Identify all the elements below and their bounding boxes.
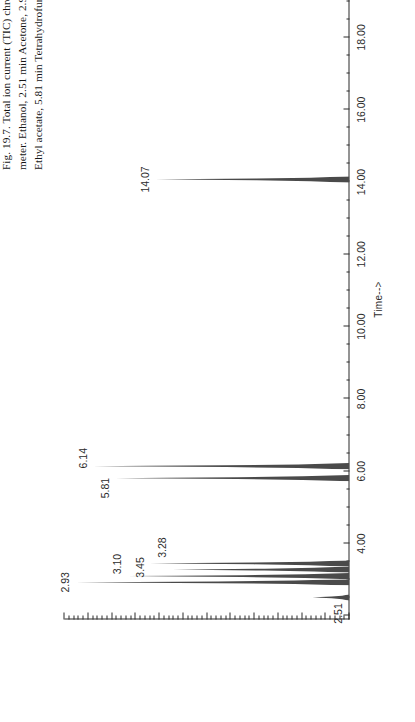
time-axis-major-tick [344, 543, 350, 544]
chromatogram-plot-area: 4.006.008.0010.0012.0014.0016.0018.00 2.… [65, 0, 350, 620]
peak-body [93, 463, 350, 469]
abundance-minor-tick [282, 616, 283, 620]
time-axis-minor-tick [346, 434, 350, 435]
time-axis-major-tick [344, 109, 350, 110]
abundance-minor-tick [306, 616, 307, 620]
peak-label-14-07: 14.07 [139, 166, 151, 192]
peak-body [312, 594, 349, 600]
abundance-minor-tick [163, 616, 164, 620]
abundance-major-tick [230, 613, 231, 620]
peak-3-28 [173, 566, 350, 572]
abundance-major-tick [301, 613, 302, 620]
abundance-major-tick [349, 613, 350, 620]
abundance-minor-tick [287, 616, 288, 620]
time-axis-major-tick [344, 398, 350, 399]
time-axis-minor-tick [346, 271, 350, 272]
time-axis-label: 10.00 [355, 313, 367, 339]
time-axis-minor-tick [346, 380, 350, 381]
abundance-major-tick [277, 613, 278, 620]
peak-label-2-93: 2.93 [59, 572, 71, 592]
abundance-minor-tick [225, 616, 226, 620]
time-axis-minor-tick [346, 163, 350, 164]
time-axis-minor-tick [346, 416, 350, 417]
peak-label-3-28: 3.28 [156, 537, 168, 557]
abundance-major-tick [87, 613, 88, 620]
time-axis-label: 8.00 [355, 389, 367, 409]
time-axis-minor-tick [346, 145, 350, 146]
abundance-minor-tick [344, 616, 345, 620]
abundance-major-tick [182, 613, 183, 620]
time-axis-major-tick [344, 470, 350, 471]
peak-label-3-45: 3.45 [133, 557, 145, 577]
peak-5-81 [116, 475, 350, 481]
time-axis-minor-tick [346, 344, 350, 345]
abundance-minor-tick [168, 616, 169, 620]
time-axis-major-tick [344, 36, 350, 37]
time-axis-minor-tick [346, 452, 350, 453]
abundance-minor-tick [178, 616, 179, 620]
abundance-minor-tick [220, 616, 221, 620]
time-axis-minor-tick [346, 525, 350, 526]
time-axis-minor-tick [346, 18, 350, 19]
caption-line-2: meter. Ethanol, 2.51 min Acetone, 2.93 m… [14, 0, 30, 170]
abundance-major-tick [64, 613, 65, 620]
time-axis-minor-tick [346, 506, 350, 507]
abundance-minor-tick [121, 616, 122, 620]
abundance-minor-tick [263, 616, 264, 620]
peak-6-14 [93, 463, 350, 469]
peak-body [76, 579, 350, 585]
time-axis-minor-tick [346, 73, 350, 74]
abundance-major-tick [206, 613, 207, 620]
abundance-minor-tick [187, 616, 188, 620]
abundance-minor-tick [83, 616, 84, 620]
abundance-minor-tick [106, 616, 107, 620]
time-axis-major-tick [344, 253, 350, 254]
abundance-minor-tick [320, 616, 321, 620]
abundance-minor-tick [125, 616, 126, 620]
time-axis-label: 18.00 [355, 24, 367, 50]
abundance-minor-tick [296, 616, 297, 620]
abundance-major-tick [111, 613, 112, 620]
abundance-minor-tick [144, 616, 145, 620]
time-axis-label: 6.00 [355, 461, 367, 481]
abundance-minor-tick [97, 616, 98, 620]
peak-2-93 [76, 579, 350, 585]
abundance-minor-tick [211, 616, 212, 620]
time-axis-label: 14.00 [355, 169, 367, 195]
abundance-minor-tick [292, 616, 293, 620]
abundance-minor-tick [116, 616, 117, 620]
abundance-major-tick [325, 613, 326, 620]
time-axis-minor-tick [346, 488, 350, 489]
figure-caption: Fig. 19.7. Total ion current (TIC) chrom… [0, 0, 47, 170]
time-axis-major-tick [344, 326, 350, 327]
peak-body [156, 176, 350, 182]
abundance-minor-tick [173, 616, 174, 620]
abundance-minor-tick [239, 616, 240, 620]
peak-body [127, 573, 349, 579]
peak-2-51 [312, 594, 349, 600]
time-axis-minor-tick [346, 217, 350, 218]
abundance-minor-tick [249, 616, 250, 620]
peak-label-5-81: 5.81 [99, 478, 111, 498]
abundance-minor-tick [235, 616, 236, 620]
time-axis-minor-tick [346, 127, 350, 128]
peak-label-3-10: 3.10 [110, 554, 122, 574]
time-axis-label: 16.00 [355, 97, 367, 123]
abundance-major-tick [254, 613, 255, 620]
abundance-minor-tick [68, 616, 69, 620]
peak-label-6-14: 6.14 [76, 448, 88, 468]
peak-body [150, 560, 350, 566]
chromatogram-figure: 4.006.008.0010.0012.0014.0016.0018.00 2.… [65, 0, 350, 620]
time-axis-minor-tick [346, 308, 350, 309]
abundance-minor-tick [244, 616, 245, 620]
abundance-minor-tick [258, 616, 259, 620]
time-axis-minor-tick [346, 91, 350, 92]
abundance-axis-line [65, 619, 350, 620]
time-axis-minor-tick [346, 0, 350, 1]
abundance-minor-tick [268, 616, 269, 620]
peak-body [116, 475, 350, 481]
caption-line-3: Ethyl acetate, 5.81 min Tetrahydrofuran,… [30, 0, 46, 170]
time-axis-title: Time--> [373, 281, 384, 317]
time-axis-minor-tick [346, 199, 350, 200]
caption-line-1: Fig. 19.7. Total ion current (TIC) chrom… [0, 0, 14, 170]
